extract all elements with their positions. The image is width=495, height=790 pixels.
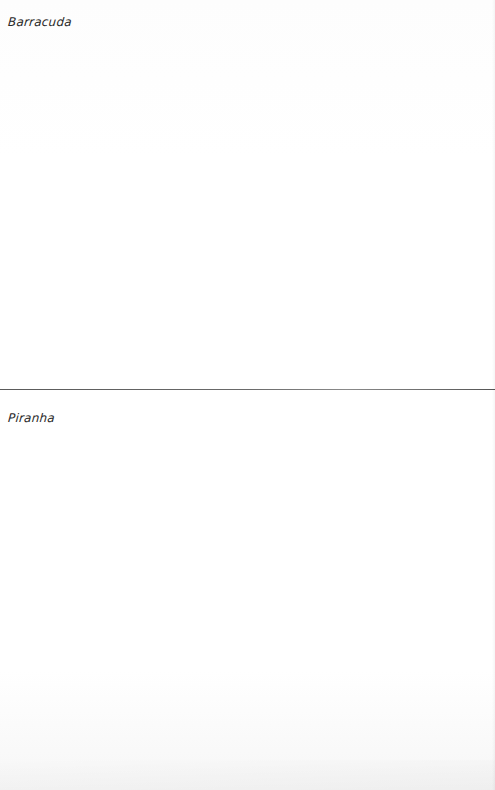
- section-label: Barracuda: [8, 15, 73, 29]
- paper-bottom-shading: [0, 760, 495, 790]
- section-piranha: Piranha: [0, 391, 495, 790]
- section-barracuda: Barracuda: [0, 0, 495, 390]
- paper-page: Barracuda Piranha: [0, 0, 495, 790]
- section-divider: [0, 389, 495, 390]
- section-label: Piranha: [8, 411, 56, 425]
